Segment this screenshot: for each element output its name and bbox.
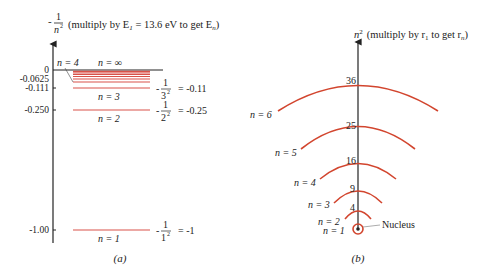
svg-text:n = 5: n = 5 <box>275 147 297 158</box>
svg-text:= -0.25: = -0.25 <box>178 105 207 116</box>
panel-b-orbits: n2(multiply by r1 to get rn) 36 25 16 9 … <box>250 28 468 265</box>
svg-text:n = 2: n = 2 <box>98 113 120 124</box>
svg-text:n = 4: n = 4 <box>294 177 316 188</box>
svg-text:-: - <box>156 225 159 236</box>
svg-text:(multiply by E1 = 13.6 eV to g: (multiply by E1 = 13.6 eV to get En) <box>68 19 220 32</box>
svg-text:36: 36 <box>346 75 356 86</box>
energy-level-and-orbit-diagram: - 1 n 2 (multiply by E1 = 13.6 eV to get… <box>0 0 490 272</box>
svg-text:2: 2 <box>167 111 170 117</box>
panel-a-axis-title: - 1 n 2 (multiply by E1 = 13.6 eV to get… <box>48 11 220 35</box>
svg-text:25: 25 <box>346 120 356 131</box>
nucleus <box>356 227 360 231</box>
svg-text:n: n <box>54 24 59 35</box>
svg-text:= -1: = -1 <box>178 225 194 236</box>
svg-text:n2(multiply by r1 to get rn): n2(multiply by r1 to get rn) <box>354 28 468 42</box>
svg-text:2: 2 <box>60 23 63 29</box>
svg-text:9: 9 <box>350 183 355 194</box>
svg-text:16: 16 <box>346 155 356 166</box>
orbit-values: 36 25 16 9 4 <box>346 75 356 213</box>
svg-text:-1.00: -1.00 <box>29 225 49 235</box>
svg-text:n = 3: n = 3 <box>308 199 330 210</box>
svg-text:n = 4: n = 4 <box>57 57 79 68</box>
svg-text:n = 1: n = 1 <box>323 225 345 236</box>
panel-a-ticks: 0 -0.0625 -0.111 -0.250 -1.00 <box>20 65 56 235</box>
svg-text:4: 4 <box>350 202 355 213</box>
svg-text:-0.250: -0.250 <box>24 105 49 115</box>
svg-text:n = 1: n = 1 <box>98 233 120 244</box>
svg-text:2: 2 <box>167 89 170 95</box>
panel-a-energy-levels: - 1 n 2 (multiply by E1 = 13.6 eV to get… <box>20 11 220 265</box>
svg-text:2: 2 <box>167 231 170 237</box>
svg-text:1: 1 <box>163 77 168 88</box>
panel-b-caption: (b) <box>352 252 365 265</box>
svg-text:2: 2 <box>161 112 166 123</box>
svg-text:= -0.11: = -0.11 <box>178 83 207 94</box>
svg-text:-: - <box>48 15 52 27</box>
nucleus-label: Nucleus <box>382 219 415 230</box>
level-formulas: - 1 3 2 = -0.11 - 1 2 2 = -0.25 - 1 1 2 … <box>156 77 207 243</box>
svg-text:1: 1 <box>163 219 168 230</box>
svg-text:-: - <box>156 105 159 116</box>
svg-text:1: 1 <box>56 11 61 22</box>
svg-text:-: - <box>156 83 159 94</box>
panel-a-caption: (a) <box>114 252 127 265</box>
svg-text:-0.111: -0.111 <box>25 83 49 93</box>
svg-text:1: 1 <box>163 99 168 110</box>
svg-text:n = 3: n = 3 <box>98 91 120 102</box>
svg-text:n = ∞: n = ∞ <box>98 57 122 68</box>
svg-text:n = 6: n = 6 <box>250 109 272 120</box>
panel-b-axis-title: n2(multiply by r1 to get rn) <box>354 28 468 42</box>
level-labels: n = 4 n = ∞ n = 3 n = 2 n = 1 <box>57 57 122 244</box>
svg-text:1: 1 <box>161 232 166 243</box>
